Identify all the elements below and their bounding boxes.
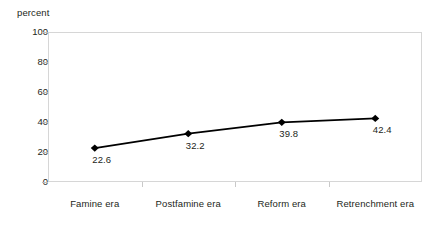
- data-point-label: 32.2: [186, 140, 205, 151]
- data-point-marker: [278, 119, 286, 126]
- x-category-label: Postfamine era: [156, 198, 221, 210]
- x-category-label: Famine era: [70, 198, 119, 210]
- data-series: [0, 0, 440, 226]
- data-point-marker: [91, 145, 99, 152]
- data-point-label: 39.8: [279, 128, 298, 139]
- x-category-label: Reform era: [257, 198, 306, 210]
- data-point-marker: [371, 115, 379, 122]
- x-category-label: Retrenchment era: [336, 198, 414, 210]
- data-point-marker: [184, 130, 192, 137]
- line-chart: percent 020406080100 22.632.239.842.4 Fa…: [0, 0, 440, 226]
- series-line: [95, 118, 376, 148]
- data-point-label: 22.6: [92, 154, 111, 165]
- data-point-label: 42.4: [373, 124, 392, 135]
